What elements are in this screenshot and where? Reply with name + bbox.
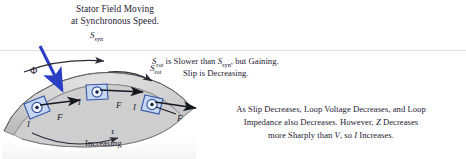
flux-label: Φ: [30, 65, 37, 77]
slip-text-1: is Slower than: [163, 56, 217, 66]
flux-arrow: [40, 46, 62, 90]
title-line-1: Stator Field Moving: [48, 4, 182, 15]
slip-ssyn-sub: syn: [222, 61, 231, 68]
conductor-slot-1-current-dot-icon: [35, 106, 38, 109]
title-line-2: at Synchronous Speed.: [44, 16, 186, 27]
current-l2-b: Decreases: [381, 117, 418, 127]
current-l2-a: Impedance also Decreases. However,: [244, 117, 376, 127]
current-label-1: I: [27, 119, 30, 129]
slip-text-2: , but Gaining.: [231, 56, 279, 66]
annotation-current-line-2: Impedance also Decreases. However, Z Dec…: [200, 117, 462, 127]
conductor-slot-2: [86, 84, 108, 100]
conductor-slot-2-current-dot-icon: [95, 90, 98, 93]
s-rot-sub: rot: [155, 68, 162, 75]
torque-caption: Increasing: [85, 138, 122, 148]
conductor-slot-3-current-dot-icon: [150, 103, 153, 106]
annotation-current-line-3: more Sharply than V, so I Increases.: [200, 130, 462, 140]
force-label-1: F: [57, 112, 63, 123]
current-l3-c: Increases.: [357, 130, 394, 140]
current-l3-b: , so: [340, 130, 354, 140]
figure-root: Stator Field Moving at Synchronous Speed…: [0, 0, 466, 159]
annotation-current-line-1: As Slip Decreases, Loop Voltage Decrease…: [200, 104, 462, 114]
s-syn-sub: syn: [95, 35, 104, 42]
current-l3-a: more Sharply than: [268, 130, 335, 140]
force-label-2: F: [116, 100, 122, 111]
torque-label: τ: [111, 126, 114, 137]
annotation-slip-line-1: Srot is Slower than Ssyn, but Gaining.: [152, 56, 279, 68]
conductor-slot-3: [141, 95, 163, 114]
s-syn-label: Ssyn: [90, 30, 103, 42]
current-label-3: I: [133, 102, 136, 112]
annotation-slip-line-2: Slip is Decreasing.: [183, 68, 249, 78]
force-label-3: F: [177, 113, 183, 124]
current-label-2: I: [78, 97, 81, 107]
